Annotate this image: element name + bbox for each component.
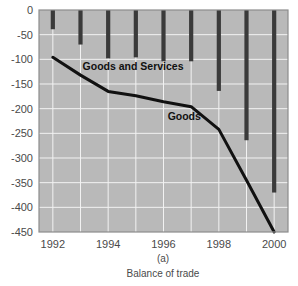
- bar-1996: [161, 10, 165, 61]
- y-tick--350: -350: [11, 177, 33, 189]
- y-tick--100: -100: [11, 53, 33, 65]
- y-tick--200: -200: [11, 103, 33, 115]
- bar-1995: [134, 10, 138, 57]
- x-axis-tick-labels: 19921994199619982000: [41, 238, 287, 250]
- annotation-goods-and-services: Goods and Services: [83, 60, 184, 72]
- x-tick-1992: 1992: [41, 238, 65, 250]
- balance-of-trade-chart: 0-50-100-150-200-250-300-350-400-450 199…: [0, 0, 298, 286]
- x-tick-1994: 1994: [96, 238, 120, 250]
- y-tick--450: -450: [11, 226, 33, 238]
- y-axis-tick-labels: 0-50-100-150-200-250-300-350-400-450: [11, 4, 33, 238]
- y-tick--250: -250: [11, 127, 33, 139]
- annotation-goods: Goods: [168, 110, 201, 122]
- bar-1998: [217, 10, 221, 91]
- panel-caption-letter: (a): [157, 253, 169, 264]
- bar-1992: [51, 10, 55, 29]
- bar-1999: [244, 10, 248, 140]
- y-tick-0: 0: [27, 4, 33, 16]
- y-tick--50: -50: [17, 29, 33, 41]
- y-tick--150: -150: [11, 78, 33, 90]
- y-tick--300: -300: [11, 152, 33, 164]
- bar-2000: [272, 10, 276, 193]
- x-tick-1998: 1998: [207, 238, 231, 250]
- bar-1997: [189, 10, 193, 61]
- figure-caption: Balance of trade: [127, 268, 200, 279]
- bar-1993: [78, 10, 82, 45]
- y-tick--400: -400: [11, 201, 33, 213]
- x-tick-1996: 1996: [151, 238, 175, 250]
- x-tick-2000: 2000: [262, 238, 286, 250]
- chart-figure: 0-50-100-150-200-250-300-350-400-450 199…: [0, 0, 298, 286]
- bar-1994: [106, 10, 110, 58]
